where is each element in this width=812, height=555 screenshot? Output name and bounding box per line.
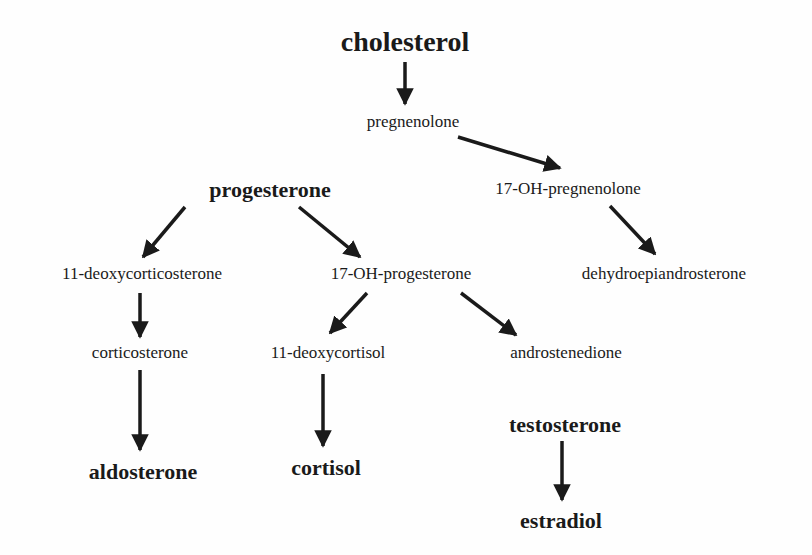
node-cholesterol: cholesterol: [341, 26, 470, 58]
node-11-deoxycorticosterone: 11-deoxycorticosterone: [62, 264, 222, 284]
node-testosterone: testosterone: [509, 412, 621, 438]
steroid-pathway-diagram: cholesterol pregnenolone progesterone 17…: [0, 0, 812, 555]
node-corticosterone: corticosterone: [92, 343, 188, 363]
node-pregnenolone: pregnenolone: [367, 112, 460, 132]
arrow-progesterone-to-deoxycorticosterone: [143, 207, 185, 257]
node-progesterone: progesterone: [209, 177, 330, 203]
arrow-oh17_pregnenolone-to-dhea: [610, 206, 655, 254]
arrow-oh17_progesterone-to-deoxycortisol: [330, 293, 367, 333]
node-androstenedione: androstenedione: [510, 343, 621, 363]
arrow-progesterone-to-oh17_progesterone: [299, 207, 360, 257]
arrow-oh17_progesterone-to-androstenedione: [461, 293, 516, 335]
node-17-oh-progesterone: 17-OH-progesterone: [331, 264, 472, 284]
node-aldosterone: aldosterone: [89, 459, 197, 485]
node-11-deoxycortisol: 11-deoxycortisol: [271, 343, 386, 363]
node-estradiol: estradiol: [520, 508, 602, 534]
node-dehydroepiandrosterone: dehydroepiandrosterone: [582, 264, 746, 284]
node-17-oh-pregnenolone: 17-OH-pregnenolone: [495, 179, 640, 199]
node-cortisol: cortisol: [291, 455, 361, 481]
arrow-pregnenolone-to-oh17_pregnenolone: [458, 137, 560, 168]
